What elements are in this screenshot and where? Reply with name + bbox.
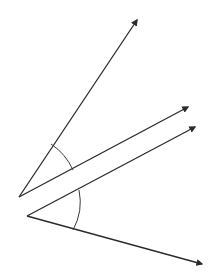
diagram-canvas (0, 0, 210, 280)
lower-ray-downward-arrow (27, 216, 202, 264)
lower-angle (27, 127, 202, 264)
upper-angle (19, 20, 188, 197)
upper-ray-shallow-arrow (19, 107, 188, 197)
angle-diagram: Two angles formed by pairs of rays (0, 0, 210, 280)
upper-ray-steep-arrow (19, 20, 137, 197)
lower-ray-upward-arrow (27, 127, 195, 216)
upper-angle-arc-mark (51, 144, 73, 170)
lower-angle-arc-mark (73, 190, 80, 230)
